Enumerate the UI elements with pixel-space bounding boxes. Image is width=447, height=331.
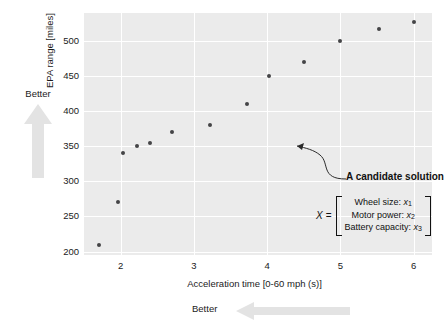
data-point	[148, 141, 152, 145]
data-point	[170, 130, 174, 134]
plot-area: A candidate solution X = Wheel size: x1M…	[84, 13, 432, 255]
data-point	[208, 123, 212, 127]
matrix-row-label: Wheel size:	[355, 197, 404, 207]
matrix-row: Motor power: x2	[345, 210, 422, 223]
data-point	[338, 39, 342, 43]
matrix-row-subscript: 3	[418, 225, 422, 232]
matrix-row: Wheel size: x1	[345, 197, 422, 210]
x-tick-label: 6	[411, 260, 416, 271]
matrix-row-label: Battery capacity:	[345, 222, 414, 232]
data-point	[302, 60, 306, 64]
y-tick-label: 500	[63, 35, 79, 46]
y-axis-title: EPA range [miles]	[44, 13, 55, 88]
matrix-row-subscript: 2	[411, 213, 415, 220]
gridline-horizontal	[84, 76, 432, 77]
better-label-horizontal: Better	[192, 303, 217, 314]
chart-canvas: A candidate solution X = Wheel size: x1M…	[0, 0, 447, 331]
gridline-vertical	[121, 13, 122, 255]
y-tick-label: 450	[63, 70, 79, 81]
matrix-variable: X	[316, 210, 323, 221]
matrix-row: Battery capacity: x3	[345, 222, 422, 235]
better-direction-horizontal: Better	[192, 300, 362, 324]
gridline-horizontal	[84, 41, 432, 42]
x-axis-title-wrap: Acceleration time [0-60 mph (s)]	[0, 278, 447, 289]
matrix-equals-sign: =	[326, 210, 332, 221]
data-point	[116, 200, 120, 204]
data-point	[412, 20, 416, 24]
matrix-right-bracket	[425, 196, 431, 236]
gridline-vertical	[267, 13, 268, 255]
gridline-horizontal	[84, 111, 432, 112]
better-label-vertical: Better	[8, 88, 68, 99]
y-tick-label: 250	[63, 210, 79, 221]
y-tick-label: 200	[63, 246, 79, 257]
data-point	[121, 151, 125, 155]
matrix-row-label: Motor power:	[352, 210, 407, 220]
candidate-solution-matrix: X = Wheel size: x1Motor power: x2Battery…	[316, 196, 431, 236]
matrix-row-subscript: 1	[408, 200, 412, 207]
annotation-label: A candidate solution	[346, 171, 444, 182]
data-point	[267, 74, 271, 78]
x-tick-label: 2	[118, 260, 123, 271]
gridline-vertical	[194, 13, 195, 255]
x-axis-title: Acceleration time [0-60 mph (s)]	[187, 278, 322, 289]
better-direction-vertical: Better	[8, 88, 68, 184]
matrix-rows: Wheel size: x1Motor power: x2Battery cap…	[342, 196, 425, 236]
data-point	[135, 144, 139, 148]
x-tick-label: 4	[265, 260, 270, 271]
x-tick-label: 5	[338, 260, 343, 271]
up-arrow-icon	[22, 102, 54, 180]
data-point	[245, 102, 249, 106]
left-arrow-icon	[234, 300, 352, 322]
data-point	[97, 243, 101, 247]
gridline-horizontal	[84, 252, 432, 253]
data-point	[377, 27, 381, 31]
x-tick-label: 3	[191, 260, 196, 271]
